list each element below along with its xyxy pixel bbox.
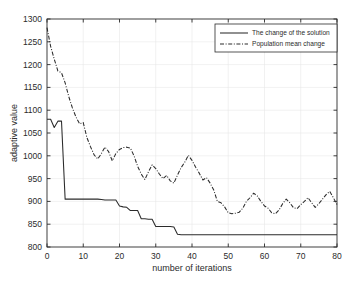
x-tick-label: 80 xyxy=(332,251,342,261)
y-tick-label: 1200 xyxy=(23,60,42,70)
y-tick-label: 1000 xyxy=(23,151,42,161)
y-axis-title: adaptive value xyxy=(9,104,19,162)
x-axis-title: number of iterations xyxy=(152,263,232,273)
y-tick-label: 850 xyxy=(28,219,42,229)
y-tick-label: 900 xyxy=(28,196,42,206)
x-tick-label: 10 xyxy=(79,251,89,261)
y-tick-label: 1100 xyxy=(24,105,43,115)
x-tick-label: 0 xyxy=(45,251,50,261)
legend-box xyxy=(215,24,337,52)
legend-label-1: Population mean change xyxy=(252,40,325,48)
adaptive-value-line-chart: 8008509009501000105011001150120012501300… xyxy=(0,0,355,284)
x-tick-label: 70 xyxy=(296,251,306,261)
x-tick-label: 30 xyxy=(151,251,161,261)
x-tick-label: 40 xyxy=(187,251,197,261)
y-tick-label: 800 xyxy=(28,242,42,252)
y-tick-label: 1050 xyxy=(23,128,42,138)
y-tick-label: 950 xyxy=(28,174,42,184)
x-tick-label: 60 xyxy=(260,251,270,261)
legend-label-0: The change of the solution xyxy=(252,29,330,37)
x-tick-label: 20 xyxy=(115,251,125,261)
y-tick-label: 1150 xyxy=(24,82,43,92)
x-tick-label: 50 xyxy=(224,251,234,261)
y-tick-label: 1250 xyxy=(23,37,42,47)
chart-legend: The change of the solutionPopulation mea… xyxy=(215,24,337,52)
y-tick-label: 1300 xyxy=(23,14,42,24)
chart-figure: 8008509009501000105011001150120012501300… xyxy=(0,0,355,284)
